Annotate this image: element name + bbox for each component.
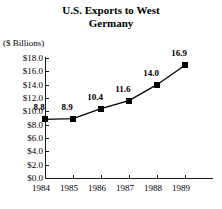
- y-axis-tick: [46, 85, 49, 86]
- y-axis-tick-label: $2.0: [27, 161, 43, 170]
- data-point-marker: [182, 62, 188, 68]
- y-axis-tick-label: $14.0: [23, 81, 43, 90]
- plot-area: $0.0$2.0$4.0$6.0$8.0$10.0$12.0$14.0$16.0…: [0, 0, 222, 209]
- data-point-marker: [154, 82, 160, 88]
- data-point-value-label: 8.8: [24, 103, 54, 112]
- x-axis-tick: [185, 175, 186, 178]
- x-axis-tick: [101, 175, 102, 178]
- data-point-marker: [98, 106, 104, 112]
- data-point-value-label: 16.9: [164, 49, 194, 58]
- y-axis-tick: [46, 178, 49, 179]
- data-point-value-label: 10.4: [80, 93, 110, 102]
- y-axis-tick-label: $0.0: [27, 174, 43, 183]
- data-point-marker: [42, 116, 48, 122]
- y-axis-tick: [46, 58, 49, 59]
- x-axis-tick-label: 1989: [164, 184, 198, 193]
- data-point-marker: [126, 98, 132, 104]
- y-axis-tick-label: $6.0: [27, 134, 43, 143]
- y-axis-tick: [46, 71, 49, 72]
- y-axis-tick: [46, 165, 49, 166]
- x-axis-tick: [129, 175, 130, 178]
- x-axis-tick: [73, 175, 74, 178]
- y-axis-tick: [46, 151, 49, 152]
- y-axis-tick-label: $16.0: [23, 67, 43, 76]
- y-axis-tick: [46, 98, 49, 99]
- data-point-marker: [70, 116, 76, 122]
- y-axis-tick-label: $4.0: [27, 147, 43, 156]
- y-axis-tick: [46, 125, 49, 126]
- y-axis-tick-label: $8.0: [27, 121, 43, 130]
- chart-container: U.S. Exports to West Germany ($ Billions…: [0, 0, 222, 209]
- y-axis-tick-label: $18.0: [23, 54, 43, 63]
- x-axis-tick: [157, 175, 158, 178]
- y-axis-tick: [46, 138, 49, 139]
- data-point-value-label: 8.9: [52, 103, 82, 112]
- data-point-value-label: 11.6: [108, 85, 138, 94]
- data-point-value-label: 14.0: [136, 69, 166, 78]
